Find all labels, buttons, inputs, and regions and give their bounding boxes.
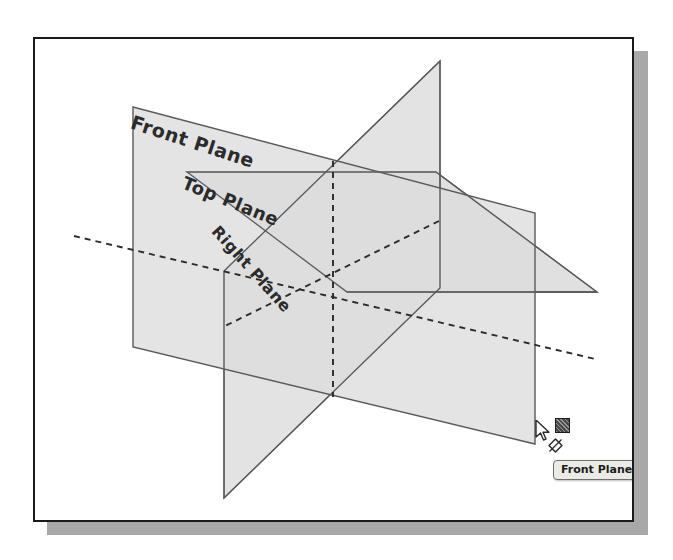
plane-glyph-icon	[555, 418, 570, 433]
tooltip-label: Front Plane	[561, 463, 632, 476]
plane-tooltip: Front Plane	[553, 460, 634, 480]
screenshot-root: Front Plane Top Plane Right Plane Front …	[0, 0, 673, 560]
diamond-select-icon	[547, 437, 564, 454]
graphics-area-frame: Front Plane Top Plane Right Plane Front …	[33, 37, 634, 522]
front-plane-shape[interactable]	[133, 107, 535, 444]
reference-planes-diagram	[35, 39, 634, 522]
